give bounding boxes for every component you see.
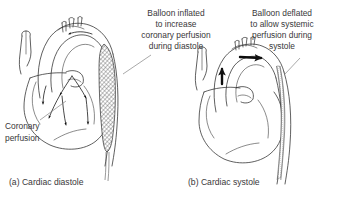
annotation-a-line-1: Balloon inflated xyxy=(147,8,205,18)
annotation-a-line-3: coronary perfusion xyxy=(141,30,211,40)
iabp-diagram: Balloon inflated to increase coronary pe… xyxy=(0,0,350,198)
caption-panel-b: (b) Cardiac systole xyxy=(188,177,260,187)
figure-root: Balloon inflated to increase coronary pe… xyxy=(0,0,350,198)
annotation-balloon-inflated: Balloon inflated to increase coronary pe… xyxy=(141,8,211,51)
annotation-a-line-2: to increase xyxy=(156,19,197,29)
annotation-a-line-4: during diastole xyxy=(149,41,204,51)
arch-outflow-arrow-icon xyxy=(240,57,261,58)
annotation-b-line-3: perfusion during xyxy=(252,30,312,40)
annotation-b-line-4: systole xyxy=(269,41,295,51)
annotation-b-line-2: to allow systemic xyxy=(250,19,313,29)
coronary-perfusion-line-2: perfusion xyxy=(5,133,40,143)
annotation-b-line-1: Balloon deflated xyxy=(252,8,312,18)
coronary-perfusion-line-1: Coronary xyxy=(5,121,40,131)
caption-panel-a: (a) Cardiac diastole xyxy=(9,177,84,187)
